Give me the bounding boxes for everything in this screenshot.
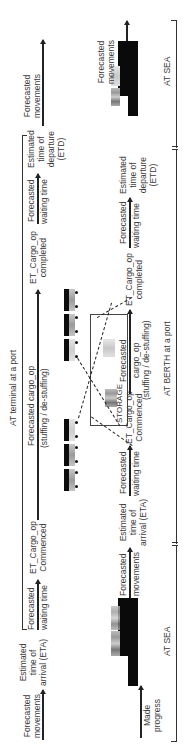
label-eta-top: Estimated time of arrival (ETA) — [18, 639, 48, 686]
bracket-tick — [171, 20, 176, 21]
label-forecasted-waiting-top-1: Forecasted — [26, 587, 36, 630]
container-stack — [64, 419, 75, 441]
container-stack — [64, 314, 75, 336]
label-forecasted-movements-top-right: Forecasted movements — [22, 74, 42, 118]
label-at-sea-right: AT SEA — [162, 57, 172, 86]
label-forecasted-cargo-op-top-line2: (stuffing / de-stuffing) — [39, 368, 49, 448]
ship-hull-right — [118, 41, 138, 96]
ship-stern-left — [128, 656, 138, 686]
label-at-sea-left: AT SEA — [162, 627, 172, 656]
label-forecasted-movements-bottom-left-line2: movements — [131, 552, 141, 596]
ship-stern-right — [128, 96, 138, 116]
label-forecasted-movements-top-left: Forecasted movements — [22, 694, 42, 738]
ship-hull-left — [118, 598, 138, 656]
label-at-berth: AT BERTH at a port — [162, 321, 172, 396]
bracket-tick — [172, 146, 178, 147]
bracket-tick — [171, 741, 176, 742]
label-forecasted-cargo-op-bottom-lines: cargo_op (stuffing / de-stuffing) — [131, 320, 151, 400]
bracket-at-sea-right — [176, 20, 177, 148]
bracket-tick — [172, 149, 178, 150]
container-stack — [64, 339, 75, 361]
bracket-at-berth — [176, 150, 177, 544]
stored-container — [103, 339, 115, 357]
label-forecasted-movements-bottom-right: Forecasted movements — [96, 40, 116, 84]
label-forecasted-cargo-op-top: Forecasted cargo_op — [26, 366, 36, 446]
label-forecasted-waiting-bottom-2: Forecasted — [118, 201, 128, 244]
ship-containers-left — [111, 631, 120, 656]
label-eta-bottom: Estimated time of arrival (ETA) — [118, 499, 148, 546]
arrow-right-icon — [42, 690, 44, 740]
container-stack — [64, 289, 75, 311]
label-et-cargo-commenced-top: ET_Cargo_op Commenced — [28, 521, 48, 574]
label-et-cargo-completed-top: ET_Cargo_op completed — [28, 231, 48, 284]
label-et-cargo-completed-bottom: ET_Cargo_op completed — [124, 253, 144, 306]
bracket-at-sea-left — [176, 546, 177, 742]
container-stack — [64, 469, 75, 491]
ship-containers-right — [111, 88, 120, 106]
ship-containers-left — [111, 606, 120, 630]
label-at-terminal: AT terminal at a port — [8, 350, 18, 426]
port-call-diagram: Forecasted movements Estimated time of a… — [0, 0, 193, 746]
bracket-tick — [172, 545, 178, 546]
label-forecasted-waiting-bottom-1-line2: waiting time — [131, 451, 141, 496]
bracket-tick — [172, 542, 178, 543]
label-forecasted-cargo-op-bottom: Forecasted — [118, 339, 128, 382]
label-forecasted-waiting-top-2-line2: waiting time — [39, 179, 49, 224]
label-forecasted-waiting-top-2: Forecasted — [26, 179, 36, 222]
terminal-bracket — [22, 135, 23, 630]
label-etd-top: Estimated time of departure (ETD) — [26, 130, 66, 168]
label-made-progress: Made progress — [142, 699, 162, 732]
label-forecasted-movements-bottom-left: Forecasted — [118, 553, 128, 596]
label-forecasted-waiting-bottom-2-line2: waiting time — [131, 203, 141, 248]
label-etd-bottom: Estimated time of departure (ETD) — [118, 156, 158, 194]
arrow-right-icon — [126, 21, 128, 41]
label-forecasted-waiting-bottom-1: Forecasted — [118, 451, 128, 494]
arrow-right-icon — [42, 40, 44, 126]
label-forecasted-waiting-top-1-line2: waiting time — [39, 585, 49, 630]
container-stack — [64, 444, 75, 466]
